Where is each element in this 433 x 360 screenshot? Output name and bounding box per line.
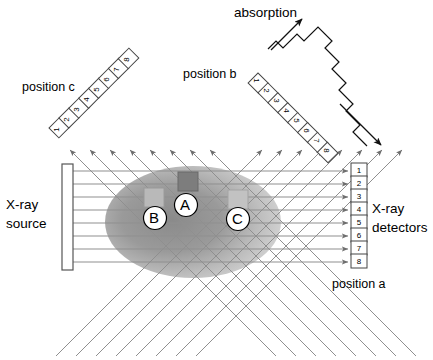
inclusion-label-c-text: C [232,210,243,227]
detector-cell-c-7[interactable]: 7 [112,64,121,76]
xray-detectors-label-line2: detectors [372,220,428,236]
position-b-label: position b [183,67,237,81]
detector-cell-b-8[interactable]: 8 [321,144,330,156]
detector-cell-b-1[interactable]: 1 [251,74,260,86]
detector-cell-b-2[interactable]: 2 [261,84,270,96]
xray-detectors-label-line1: X-ray [372,201,404,217]
detector-cell-a-8[interactable]: 8 [353,257,365,266]
detector-cell-c-8[interactable]: 8 [122,54,131,66]
inclusion-label-a-text: A [180,196,190,213]
detector-cell-a-5[interactable]: 5 [353,218,365,227]
detector-cell-c-5[interactable]: 5 [92,84,101,96]
absorption-axis-arrow [271,19,381,145]
ct-scan-diagram: absorption position c position b positio… [0,0,433,360]
xray-source-bar [62,164,73,270]
detector-cell-a-4[interactable]: 4 [353,205,365,214]
inclusion-label-b-text: B [149,209,159,226]
detector-cell-c-2[interactable]: 2 [62,114,71,126]
detector-cell-c-3[interactable]: 3 [72,104,81,116]
absorption-axis-label: absorption [234,5,297,21]
diagram-canvas [0,0,433,360]
detector-cell-c-1[interactable]: 1 [52,124,61,136]
detector-cell-c-4[interactable]: 4 [82,94,91,106]
detector-cell-a-7[interactable]: 7 [353,244,365,253]
position-a-label: position a [332,277,386,291]
detector-cell-b-3[interactable]: 3 [271,94,280,106]
detector-cell-a-2[interactable]: 2 [353,179,365,188]
detector-cell-b-4[interactable]: 4 [281,104,290,116]
xray-source-label-line2: source [6,216,47,232]
detector-cell-a-3[interactable]: 3 [353,192,365,201]
detector-cell-a-6[interactable]: 6 [353,231,365,240]
inclusion-b [144,188,164,207]
xray-source-label-line1: X-ray [6,197,38,213]
detector-cell-c-6[interactable]: 6 [102,74,111,86]
detector-cell-b-5[interactable]: 5 [291,114,300,126]
position-c-label: position c [22,80,75,94]
absorption-profile-curve [268,27,367,146]
detector-cell-a-1[interactable]: 1 [353,166,365,175]
detector-cell-b-7[interactable]: 7 [311,134,320,146]
detector-cell-b-6[interactable]: 6 [301,124,310,136]
inclusion-a [178,172,198,191]
inclusion-c [228,190,248,209]
